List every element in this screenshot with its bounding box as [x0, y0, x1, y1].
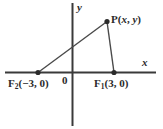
point-marker-f1 — [111, 70, 116, 75]
point-label-f1: F1(3, 0) — [94, 78, 128, 89]
point-label-p-close: ) — [137, 13, 141, 25]
point-marker-f2 — [35, 70, 40, 75]
geometry-figure: y x 0 P(x, y) F2(−3, 0) F1(3, 0) — [0, 0, 163, 129]
f2-subscript: 2 — [15, 82, 19, 91]
f1-letter: F — [94, 77, 101, 89]
point-label-p-prefix: P( — [111, 13, 121, 25]
point-label-f2: F2(−3, 0) — [8, 78, 49, 89]
f1-coords: (3, 0) — [104, 77, 128, 89]
segment-p-to-f1 — [107, 22, 114, 73]
point-marker-p — [104, 19, 109, 24]
y-axis-label: y — [77, 2, 82, 13]
f2-letter: F — [8, 77, 15, 89]
point-label-p: P(x, y) — [111, 14, 141, 25]
x-axis-label: x — [142, 57, 148, 68]
origin-label: 0 — [62, 75, 68, 86]
f2-coords: (−3, 0) — [18, 77, 48, 89]
f1-subscript: 1 — [101, 82, 105, 91]
